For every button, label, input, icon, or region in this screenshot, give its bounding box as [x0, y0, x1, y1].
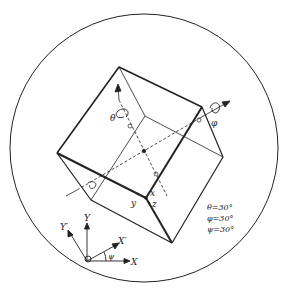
theta-rotation-arrow	[115, 84, 132, 128]
angle-values: θ=30° φ=30° ψ=30°	[207, 203, 234, 234]
theta-arrowhead-icon	[115, 84, 121, 92]
frame-angle-psi: ψ	[108, 252, 115, 261]
corner-point-z	[148, 202, 150, 204]
angle-value-psi: ψ=30°	[207, 225, 234, 234]
cube-edge-front-left	[57, 153, 146, 198]
X-arrowhead-icon	[124, 259, 130, 264]
psi-angle-arc	[104, 252, 106, 261]
cube-center-point	[142, 149, 146, 153]
boundary-circle	[10, 14, 278, 282]
corner-axis-z: z	[151, 199, 157, 209]
corner-axis-y: y	[130, 198, 137, 208]
angle-value-phi: φ=30°	[207, 214, 233, 223]
theta-axis-pierce-icon	[128, 124, 132, 128]
cube-inner-edges	[119, 67, 223, 157]
angle-value-theta: θ=30°	[207, 203, 233, 212]
phi-axis-in	[66, 190, 77, 196]
cube-inner-edge-down	[91, 116, 145, 200]
frame-label-X-prime: X′	[117, 236, 126, 246]
frame-label-X: X	[130, 257, 138, 267]
theta-label: θ	[110, 113, 116, 123]
euler-cube-diagram: θ φ x y z θ=30° φ=30° ψ=30° X	[0, 0, 288, 296]
Y-arrowhead-icon	[85, 223, 90, 229]
corner-point	[144, 196, 148, 200]
frame-label-Y-prime: Y′	[60, 222, 68, 232]
cube-edge-bottom-left	[57, 153, 172, 243]
Y-prime-axis	[70, 233, 87, 261]
cube	[57, 67, 223, 243]
theta-axis	[119, 100, 167, 196]
corner-axis-x: x	[150, 188, 155, 198]
frame-label-Y: Y	[84, 213, 91, 223]
phi-arrowhead-icon	[222, 101, 230, 107]
phi-axis	[77, 118, 200, 190]
theta-rotation-curl-icon	[116, 109, 128, 118]
corner-point-y	[137, 193, 139, 195]
rotation-axes	[66, 86, 228, 196]
phi-label: φ	[211, 118, 218, 128]
psi-rotation-curl-icon	[88, 182, 96, 189]
